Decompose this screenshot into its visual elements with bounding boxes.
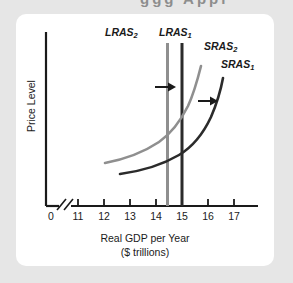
x-tick-label-17: 17 bbox=[225, 210, 243, 222]
sras1-label-subscript: 1 bbox=[250, 63, 254, 72]
x-tick-label-14: 14 bbox=[147, 210, 165, 222]
figure-outer-frame: ggg Appl bbox=[0, 0, 293, 283]
sras1-label-text: SRAS bbox=[221, 58, 250, 70]
lras2-label-text: LRAS bbox=[105, 26, 134, 38]
lras1-label-subscript: 1 bbox=[188, 31, 192, 40]
lras2-label-subscript: 2 bbox=[134, 31, 138, 40]
x-axis-label-line1: Real GDP per Year bbox=[16, 232, 274, 244]
x-tick-label-11: 11 bbox=[69, 210, 87, 222]
x-tick-label-0: 0 bbox=[42, 210, 60, 222]
lras-shift-arrow bbox=[155, 83, 176, 92]
lras2-curve-label: LRAS2 bbox=[105, 26, 138, 38]
cropped-header-text: ggg Appl bbox=[140, 0, 228, 7]
x-axis-label-line2: ($ trillions) bbox=[16, 246, 274, 258]
sras2-label-subscript: 2 bbox=[233, 45, 237, 54]
lras1-label-text: LRAS bbox=[159, 26, 188, 38]
chart-plot-area: Price Level Real GDP per Year ($ trillio… bbox=[16, 14, 274, 266]
x-tick-label-12: 12 bbox=[95, 210, 113, 222]
y-axis-label: Price Level bbox=[25, 70, 37, 142]
sras1-curve-label: SRAS1 bbox=[221, 58, 254, 70]
sras2-curve-label: SRAS2 bbox=[204, 40, 237, 52]
lras1-curve-label: LRAS1 bbox=[159, 26, 192, 38]
figure-card: Price Level Real GDP per Year ($ trillio… bbox=[16, 14, 274, 266]
top-cropped-header-strip: ggg Appl bbox=[0, 0, 293, 14]
x-tick-label-15: 15 bbox=[173, 210, 191, 222]
x-tick-label-16: 16 bbox=[199, 210, 217, 222]
sras1-curve bbox=[120, 78, 223, 174]
sras2-label-text: SRAS bbox=[204, 40, 233, 52]
x-tick-label-13: 13 bbox=[121, 210, 139, 222]
